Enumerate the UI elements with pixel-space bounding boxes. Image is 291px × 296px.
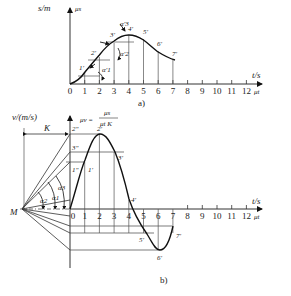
svg-text:1: 1 bbox=[82, 86, 87, 96]
svg-text:4: 4 bbox=[127, 211, 132, 221]
svg-text:0: 0 bbox=[68, 86, 73, 96]
b-k-label: K bbox=[43, 123, 51, 133]
b-velocity-curve bbox=[70, 134, 173, 250]
svg-text:0: 0 bbox=[71, 211, 76, 221]
b-angle-1: α1 bbox=[52, 194, 59, 202]
svg-text:8: 8 bbox=[185, 86, 190, 96]
a-x-ticks bbox=[85, 80, 247, 84]
b-angle-2: α2 bbox=[40, 197, 48, 205]
a-point-4: 4' bbox=[128, 25, 134, 33]
svg-text:6: 6 bbox=[156, 211, 161, 221]
svg-text:12: 12 bbox=[242, 86, 251, 96]
b-scale-formula-num: μs bbox=[104, 109, 111, 117]
b-y-label: v/(m/s) bbox=[12, 112, 37, 122]
a-x-label: t/s bbox=[252, 70, 261, 80]
b-x-scale-label: μt bbox=[254, 213, 261, 221]
a-y-scale-label: μs bbox=[75, 5, 82, 13]
b-point-2: 2' bbox=[97, 125, 103, 133]
b-x-label: t/s bbox=[252, 196, 261, 206]
a-point-7: 7' bbox=[172, 50, 178, 58]
svg-text:4: 4 bbox=[127, 86, 132, 96]
svg-text:10: 10 bbox=[213, 211, 223, 221]
svg-text:6: 6 bbox=[156, 86, 161, 96]
a-angle-1: α'1 bbox=[102, 66, 111, 74]
a-caption: a) bbox=[138, 98, 145, 108]
a-x-scale-label: μt bbox=[254, 88, 261, 96]
b-point-7: 7' bbox=[176, 232, 182, 240]
svg-text:1: 1 bbox=[82, 211, 87, 221]
b-point-3pp: 3" bbox=[71, 144, 79, 152]
b-projection-lines bbox=[66, 134, 172, 250]
a-point-1: 1' bbox=[79, 64, 85, 72]
b-scale-formula-lhs: μv = bbox=[80, 116, 93, 124]
svg-text:9: 9 bbox=[200, 211, 205, 221]
a-angle-2: α'2 bbox=[120, 50, 129, 58]
b-pole-label: M bbox=[9, 207, 18, 217]
a-point-5: 5' bbox=[143, 28, 149, 36]
svg-text:9: 9 bbox=[200, 86, 205, 96]
a-y-label: s/m bbox=[38, 3, 51, 13]
svg-text:2: 2 bbox=[97, 86, 102, 96]
svg-text:7: 7 bbox=[171, 211, 176, 221]
svg-text:11: 11 bbox=[227, 86, 236, 96]
figure-a-displacement-chart: s/m μs t/s μt 0 1 2 3 4 5 6 7 8 9 10 11 … bbox=[38, 3, 262, 108]
b-point-3: 3' bbox=[117, 154, 124, 162]
b-point-5: 5' bbox=[139, 236, 145, 244]
b-point-4: 4' bbox=[131, 196, 137, 204]
svg-text:10: 10 bbox=[213, 86, 223, 96]
b-x-tick-labels: 0 1 2 3 4 5 6 7 8 9 10 11 12 bbox=[71, 211, 251, 221]
b-point-1pp: 1" bbox=[72, 166, 79, 174]
a-point-2: 2' bbox=[91, 49, 97, 57]
b-point-1: 1' bbox=[88, 166, 94, 174]
b-ordinates bbox=[85, 134, 173, 250]
svg-text:5: 5 bbox=[141, 86, 146, 96]
svg-text:5: 5 bbox=[141, 211, 146, 221]
a-point-3: 3' bbox=[109, 31, 116, 39]
b-angle-3: α3 bbox=[58, 184, 66, 192]
svg-text:3: 3 bbox=[112, 86, 117, 96]
svg-text:8: 8 bbox=[185, 211, 190, 221]
a-x-tick-labels: 0 1 2 3 4 5 6 7 8 9 10 11 12 bbox=[68, 86, 251, 96]
b-caption: b) bbox=[160, 275, 168, 285]
b-point-2pp: 2" bbox=[72, 125, 79, 133]
kinematic-graph-figure: s/m μs t/s μt 0 1 2 3 4 5 6 7 8 9 10 11 … bbox=[0, 0, 291, 296]
svg-text:12: 12 bbox=[242, 211, 251, 221]
a-angle-3: α'3 bbox=[120, 20, 129, 28]
svg-text:11: 11 bbox=[227, 211, 236, 221]
svg-text:2: 2 bbox=[97, 211, 102, 221]
a-point-6: 6' bbox=[157, 40, 163, 48]
b-x-ticks bbox=[188, 205, 247, 209]
b-pole-rays-down bbox=[22, 209, 70, 250]
figure-b-velocity-chart: v/(m/s) μv = μs μt K t/s μt K M bbox=[9, 109, 262, 285]
svg-text:7: 7 bbox=[171, 86, 176, 96]
svg-text:3: 3 bbox=[112, 211, 117, 221]
b-point-6: 6' bbox=[157, 254, 163, 262]
